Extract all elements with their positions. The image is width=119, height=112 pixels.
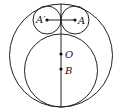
point-b — [59, 67, 62, 70]
label-a: A — [77, 15, 85, 26]
label-a-prime: A′ — [35, 14, 46, 25]
label-o: O — [65, 49, 73, 60]
point-a-prime — [45, 18, 48, 21]
point-a — [73, 18, 76, 21]
geometry-diagram: A′ A O B — [0, 0, 119, 112]
label-b: B — [64, 65, 72, 76]
point-o — [59, 52, 62, 55]
